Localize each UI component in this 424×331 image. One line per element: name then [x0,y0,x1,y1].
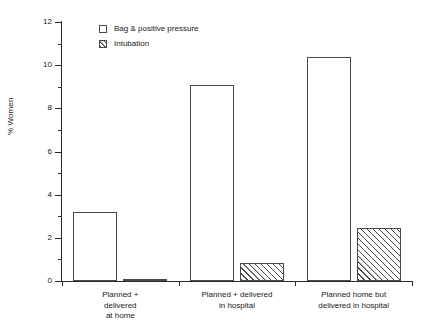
hatched-square-icon [99,40,107,48]
x-axis-tick [179,281,180,286]
y-axis-major-tick [55,152,62,153]
y-axis-tick-label-wrap: 0 [55,281,56,282]
y-axis-tick-label-wrap: 4 [55,195,56,196]
x-axis-tick [412,281,413,286]
bar [357,228,401,281]
bar [240,263,284,281]
x-axis-category-label: Planned + delivered at home [62,290,179,322]
bar [123,279,167,281]
y-axis-tick-label: 10 [43,59,52,70]
x-axis-tick [62,281,63,286]
legend-item-label: Bag & positive pressure [114,24,199,34]
y-axis-tick-label: 8 [48,102,52,113]
bar [190,85,234,281]
open-square-icon [99,25,107,33]
y-axis-tick-label-wrap: 6 [55,152,56,153]
plot-area [62,22,412,281]
x-axis-tick [295,281,296,286]
x-axis-line [61,281,412,282]
y-axis-tick-label: 2 [48,232,52,243]
legend: Bag & positive pressure Intubation [99,22,199,52]
y-axis-major-tick [55,195,62,196]
y-axis-major-tick [55,22,62,23]
y-axis-tick-label: 6 [48,146,52,157]
y-axis-tick-label: 4 [48,189,52,200]
y-axis-tick-label-wrap: 10 [55,65,56,66]
legend-item-bag-positive-pressure: Bag & positive pressure [99,22,199,35]
x-axis-category-label: Planned + delivered in hospital [179,290,296,311]
legend-item-intubation: Intubation [99,37,199,50]
bar [73,212,117,281]
bar [307,57,351,281]
y-axis-tick-label: 12 [43,16,52,27]
y-axis-major-tick [55,108,62,109]
y-axis-major-tick [55,238,62,239]
x-axis-category-label: Planned home but delivered in hospital [295,290,412,311]
y-axis-tick-label-wrap: 2 [55,238,56,239]
y-axis-tick-label: 0 [48,275,52,286]
y-axis-tick-label-wrap: 8 [55,108,56,109]
y-axis-title: % Women [6,98,15,135]
bar-chart: % Women 024681012 Planned + delivered at… [0,0,424,331]
y-axis-major-tick [55,65,62,66]
y-axis-tick-label-wrap: 12 [55,22,56,23]
legend-item-label: Intubation [114,39,149,49]
